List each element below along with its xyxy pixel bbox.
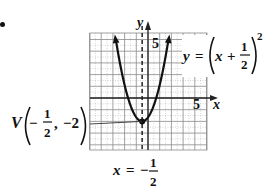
y-axis-label: y [135,15,144,30]
aos-frac-den: 2 [150,174,157,189]
curve-arrow-right-icon [165,35,172,44]
vertex-comma: , [54,115,58,131]
graph-svg: y 5 5 x y = x + 1 2 2 V − 1 2 , −2 [0,0,264,194]
equation-plus: + [227,48,236,64]
vertex-label: V − 1 2 , −2 [11,106,86,145]
aos-frac-num: 1 [150,155,157,170]
vertex-letter: V [11,114,23,131]
x-tick-label: 5 [193,97,200,112]
equation-frac-den: 2 [241,57,248,72]
equation-equals: = [195,48,204,64]
aos-lhs: x [112,162,121,178]
x-axis-label: x [212,97,220,112]
equation-lhs: y [181,48,190,64]
list-bullet [0,22,5,27]
vertex-y-value: −2 [63,115,79,131]
aos-equals: = [126,162,135,178]
vertex-minus: − [29,115,38,131]
parabola-curve [116,40,169,122]
y-axis-arrow-icon [145,21,151,30]
equation-x: x [214,48,223,64]
curve-arrow-left-icon [113,35,120,44]
vertex-right-paren-icon [81,107,86,145]
equation-exponent: 2 [257,30,263,42]
vertex-frac-num: 1 [44,106,51,121]
equation-label: y = x + 1 2 2 [181,30,263,77]
y-tick-label: 5 [152,36,159,51]
vertex-frac-den: 2 [44,125,51,140]
parabola-figure: y 5 5 x y = x + 1 2 2 V − 1 2 , −2 [0,0,264,194]
axis-of-symmetry-label: x = − 1 2 [112,155,158,189]
equation-frac-num: 1 [241,39,248,54]
aos-minus: − [140,162,149,178]
